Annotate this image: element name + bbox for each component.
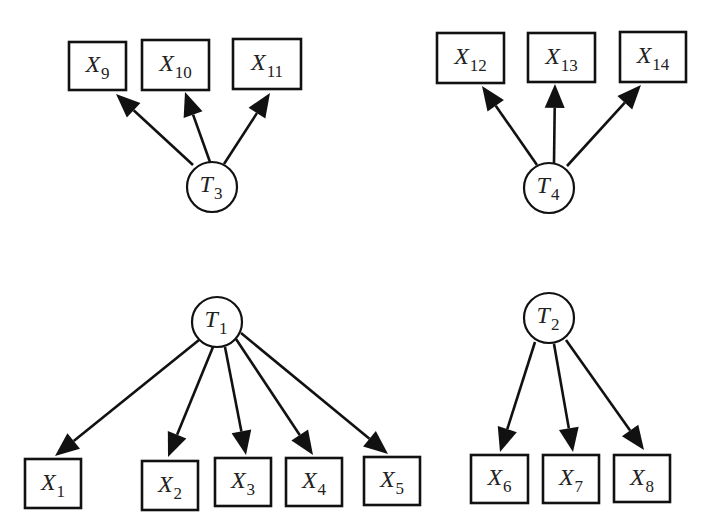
edge-t3-x9	[116, 94, 193, 165]
edge-line	[554, 344, 569, 428]
edge-line	[177, 347, 213, 435]
label-base: X	[629, 464, 646, 490]
arrowhead-icon	[232, 430, 252, 455]
label-subscript: 10	[175, 63, 192, 82]
latent-node-t1: T1	[192, 297, 242, 347]
edge-line	[567, 103, 625, 166]
label-subscript: 14	[652, 55, 670, 74]
observed-node-x11: X11	[233, 39, 301, 89]
edge-t1-x3	[225, 347, 251, 455]
label-subscript: 1	[57, 482, 66, 501]
observed-node-x5: X5	[364, 457, 420, 505]
arrowhead-icon	[249, 93, 270, 119]
edge-line	[134, 110, 193, 165]
observed-node-x3: X3	[215, 458, 271, 506]
edge-t4-x12	[482, 86, 537, 165]
label-subscript: 5	[396, 479, 405, 498]
label-base: X	[486, 464, 503, 490]
edge-line	[496, 106, 537, 165]
label-subscript: 6	[503, 477, 512, 496]
label-base: X	[301, 467, 318, 493]
arrowhead-icon	[622, 425, 644, 450]
label-base: X	[636, 42, 653, 68]
label-subscript: 11	[267, 62, 283, 81]
arrowhead-icon	[55, 433, 80, 456]
observed-node-x1: X1	[25, 459, 81, 508]
label-base: T	[200, 171, 215, 197]
label-subscript: 4	[551, 185, 560, 204]
label-subscript: 8	[646, 477, 655, 496]
label-subscript: 7	[575, 477, 584, 496]
arrowhead-icon	[184, 92, 203, 118]
label-subscript: 3	[247, 480, 256, 499]
label-base: X	[84, 51, 101, 77]
edge-line	[241, 333, 369, 439]
label-base: X	[40, 469, 57, 495]
edge-t1-x5	[241, 333, 388, 454]
label-subscript: 13	[561, 56, 578, 75]
edge-line	[224, 113, 257, 164]
latent-node-t3: T3	[187, 162, 237, 212]
observed-node-x6: X6	[471, 455, 528, 503]
label-base: X	[250, 49, 267, 75]
edge-line	[193, 115, 210, 162]
observed-node-x13: X13	[528, 33, 595, 82]
label-subscript: 4	[318, 480, 327, 499]
label-subscript: 2	[174, 484, 183, 503]
latent-node-t4: T4	[524, 163, 574, 213]
label-subscript: 3	[214, 184, 223, 203]
edge-line	[554, 108, 555, 163]
label-base: X	[230, 467, 247, 493]
edge-t2-x6	[498, 342, 535, 452]
observed-node-x9: X9	[69, 42, 126, 90]
label-base: T	[205, 306, 220, 332]
arrowhead-icon	[498, 426, 517, 452]
edge-t2-x8	[566, 340, 644, 450]
edge-t2-x7	[554, 344, 579, 452]
observed-node-x10: X10	[142, 40, 209, 90]
arrowhead-icon	[168, 431, 187, 457]
label-base: X	[157, 471, 174, 497]
label-base: X	[453, 43, 470, 69]
observed-node-x14: X14	[620, 32, 686, 82]
label-base: X	[158, 50, 175, 76]
label-subscript: 12	[470, 56, 487, 75]
label-subscript: 2	[551, 315, 560, 334]
observed-node-x12: X12	[437, 33, 504, 83]
label-subscript: 1	[219, 319, 228, 338]
arrowhead-icon	[363, 431, 388, 454]
arrowhead-icon	[291, 429, 313, 455]
label-base: T	[537, 172, 552, 198]
arrowhead-icon	[559, 427, 579, 452]
edge-t4-x13	[545, 84, 565, 163]
edge-t3-x10	[184, 92, 210, 162]
edges-layer	[55, 84, 644, 457]
path-diagram: X1X2X3X4X5X6X7X8X9X10X11X12X13X14 T1T2T3…	[0, 0, 722, 523]
label-base: X	[544, 43, 561, 69]
latent-nodes-layer: T1T2T3T4	[187, 162, 574, 347]
label-base: X	[558, 464, 575, 490]
edge-t1-x2	[168, 347, 213, 457]
label-base: T	[537, 302, 552, 328]
observed-node-x8: X8	[614, 455, 670, 502]
arrowhead-icon	[482, 86, 504, 111]
edge-line	[236, 339, 300, 435]
edge-t3-x11	[224, 93, 270, 164]
observed-node-x4: X4	[286, 458, 342, 506]
label-base: X	[379, 466, 396, 492]
latent-node-t2: T2	[524, 293, 574, 343]
label-subscript: 9	[101, 64, 110, 83]
edge-line	[225, 347, 241, 431]
observed-node-x7: X7	[543, 455, 599, 503]
edge-t4-x14	[567, 85, 641, 166]
edge-line	[566, 340, 630, 430]
edge-line	[507, 342, 535, 429]
arrowhead-icon	[545, 84, 565, 108]
observed-node-x2: X2	[142, 461, 198, 510]
